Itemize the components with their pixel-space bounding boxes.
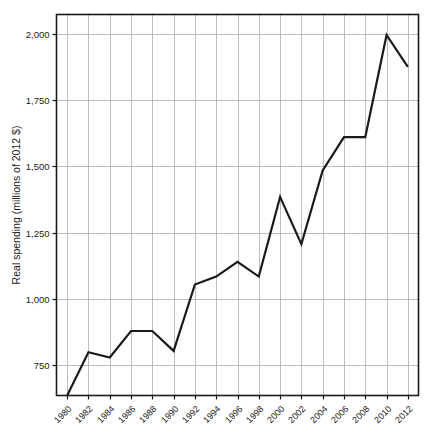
line-chart: 7501,0001,2501,5001,7502,000 19801982198…: [0, 0, 430, 438]
chart-container: 7501,0001,2501,5001,7502,000 19801982198…: [0, 0, 430, 438]
y-tick-label: 1,250: [26, 228, 50, 239]
y-tick-label: 1,000: [26, 294, 50, 305]
y-tick-label: 750: [34, 360, 50, 371]
y-axis-title: Real spending (millions of 2012 $): [10, 126, 22, 285]
y-tick-label: 1,500: [26, 161, 50, 172]
y-tick-label: 1,750: [26, 95, 50, 106]
y-tick-label: 2,000: [26, 29, 50, 40]
